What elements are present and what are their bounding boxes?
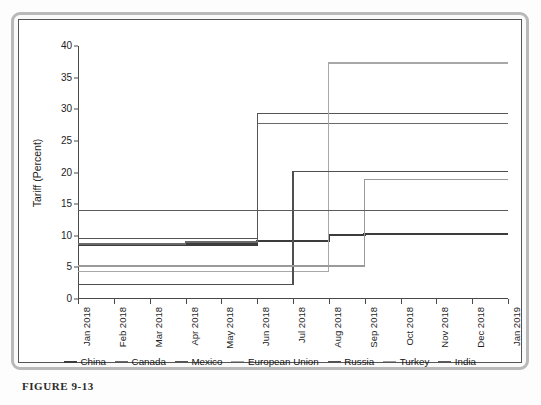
legend-swatch-icon xyxy=(438,361,451,362)
legend-item[interactable]: European Union xyxy=(231,356,318,367)
x-axis-tick-mark xyxy=(150,299,151,304)
x-axis-tick-mark xyxy=(293,299,294,304)
x-axis-tick-label: Jun 2018 xyxy=(261,307,271,346)
figure-page: Tariff (Percent) 0510152025303540Jan 201… xyxy=(0,0,541,405)
legend-item[interactable]: India xyxy=(438,356,476,367)
x-axis-tick-mark xyxy=(329,299,330,304)
series-layer xyxy=(78,46,508,299)
figure-caption: FIGURE 9-13 xyxy=(22,380,94,392)
x-axis-tick-mark xyxy=(257,299,258,304)
y-axis-tick-mark xyxy=(74,109,78,110)
legend-label: Turkey xyxy=(400,356,430,367)
x-axis-tick-mark xyxy=(78,299,79,304)
y-axis-tick-label: 20 xyxy=(61,168,72,178)
y-axis-tick-mark xyxy=(74,235,78,236)
y-axis-title-text: Tariff (Percent) xyxy=(31,138,43,207)
legend-swatch-icon xyxy=(115,361,128,362)
plot-area: 0510152025303540Jan 2018Feb 2018Mar 2018… xyxy=(78,46,508,299)
legend-item[interactable]: Turkey xyxy=(383,356,429,367)
legend-label: Mexico xyxy=(191,356,222,367)
y-axis-tick-label: 10 xyxy=(61,231,72,241)
y-axis-tick-label: 0 xyxy=(66,294,72,304)
x-axis-tick-label: Jan 2018 xyxy=(82,307,92,346)
y-axis-tick-label: 30 xyxy=(61,104,72,114)
y-axis-tick-label: 40 xyxy=(61,41,72,51)
legend-label: China xyxy=(80,356,106,367)
x-axis-tick-mark xyxy=(401,299,402,304)
legend-label: Canada xyxy=(132,356,166,367)
y-axis-title: Tariff (Percent) xyxy=(30,46,44,299)
x-axis-tick-label: Feb 2018 xyxy=(118,307,128,347)
legend-swatch-icon xyxy=(175,361,188,362)
x-axis-tick-mark xyxy=(186,299,187,304)
y-axis-tick-mark xyxy=(74,267,78,268)
legend-item[interactable]: Canada xyxy=(115,356,166,367)
legend-swatch-icon xyxy=(383,361,396,362)
x-axis-tick-label: Oct 2018 xyxy=(405,307,415,346)
x-axis-tick-label: Aug 2018 xyxy=(333,307,343,348)
x-axis-tick-mark xyxy=(436,299,437,304)
legend-item[interactable]: Russia xyxy=(328,356,374,367)
legend-swatch-icon xyxy=(64,361,77,363)
y-axis-tick-mark xyxy=(74,46,78,47)
x-axis-tick-label: Jul 2018 xyxy=(297,307,307,343)
x-axis-tick-label: May 2018 xyxy=(225,307,235,349)
legend-label: European Union xyxy=(248,356,319,367)
legend-item[interactable]: Mexico xyxy=(175,356,223,367)
x-axis-tick-label: Nov 2018 xyxy=(440,307,450,348)
y-axis-tick-mark xyxy=(74,77,78,78)
x-axis-tick-label: Dec 2018 xyxy=(476,307,486,348)
y-axis-tick-label: 25 xyxy=(61,136,72,146)
x-axis-tick-mark xyxy=(472,299,473,304)
x-axis-tick-label: Jan 2019 xyxy=(512,307,522,346)
x-axis-tick-mark xyxy=(508,299,509,304)
legend-label: Russia xyxy=(344,356,374,367)
chart-legend: ChinaCanadaMexicoEuropean UnionRussiaTur… xyxy=(18,356,522,367)
y-axis-tick-label: 5 xyxy=(66,262,72,272)
x-axis-tick-label: Mar 2018 xyxy=(154,307,164,347)
legend-swatch-icon xyxy=(231,361,244,362)
legend-label: India xyxy=(455,356,476,367)
y-axis-tick-mark xyxy=(74,140,78,141)
legend-swatch-icon xyxy=(328,361,341,362)
x-axis-tick-mark xyxy=(221,299,222,304)
x-axis-tick-mark xyxy=(114,299,115,304)
x-axis-tick-mark xyxy=(365,299,366,304)
legend-item[interactable]: China xyxy=(64,356,106,367)
x-axis-tick-label: Sep 2018 xyxy=(369,307,379,348)
x-axis-tick-label: Apr 2018 xyxy=(190,307,200,346)
series-line xyxy=(78,171,508,284)
y-axis-tick-mark xyxy=(74,172,78,173)
y-axis-tick-label: 15 xyxy=(61,199,72,209)
y-axis-tick-mark xyxy=(74,204,78,205)
y-axis-tick-label: 35 xyxy=(61,73,72,83)
